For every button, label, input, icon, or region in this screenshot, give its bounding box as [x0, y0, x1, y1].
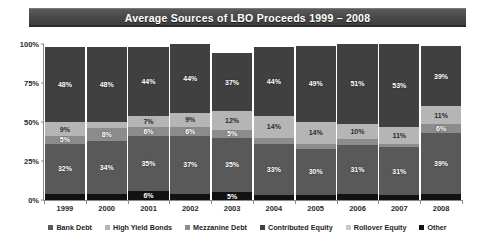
bar-segment[interactable]: 7% [128, 116, 168, 127]
page-title: Average Sources of LBO Proceeds 1999 – 2… [29, 9, 466, 26]
bar-segment-label: 6% [143, 192, 153, 199]
legend-item[interactable]: Bank Debt [48, 223, 92, 232]
bar-segment-label: 39% [434, 160, 448, 167]
bar-segment[interactable]: 6% [421, 124, 461, 133]
bar-segment[interactable]: 6% [128, 191, 168, 200]
bar-segment[interactable]: 44% [128, 47, 168, 116]
bar-segment[interactable]: 5% [45, 136, 85, 144]
bar-segment-label: 5% [60, 136, 70, 143]
bar-segment[interactable]: 8% [87, 128, 127, 140]
bar-segment[interactable]: 39% [421, 46, 461, 107]
bar-segment[interactable]: 9% [170, 113, 210, 127]
bar-segment[interactable]: 12% [212, 111, 252, 130]
x-axis-tick-label: 2000 [87, 204, 127, 216]
bar-segment-label: 48% [100, 81, 114, 88]
legend-item[interactable]: High Yield Bonds [105, 223, 172, 232]
bar-segment-label: 9% [185, 116, 195, 123]
bar-segment[interactable]: 6% [170, 127, 210, 136]
legend-item-label: Other [427, 223, 446, 232]
bar-segment[interactable]: 4% [421, 194, 461, 200]
bar-segment[interactable]: 10% [337, 124, 377, 140]
legend-swatch-icon [346, 225, 351, 230]
bar-segment-label: 11% [392, 132, 406, 139]
bar-segment[interactable]: 4% [45, 194, 85, 200]
bar-series-group: 48%9%5%32%4%48%4%8%34%4%44%7%6%35%6%44%9… [44, 44, 462, 200]
bar-segment[interactable]: 9% [45, 122, 85, 136]
bar-segment[interactable]: 4% [87, 194, 127, 200]
legend-item[interactable]: Mezzanine Debt [185, 223, 247, 232]
bar-segment[interactable]: 37% [212, 53, 252, 111]
bar-segment-label: 30% [309, 168, 323, 175]
bar-segment[interactable]: 14% [296, 122, 336, 144]
bar-segment-label: 31% [392, 168, 406, 175]
bar-segment[interactable]: 33% [254, 144, 294, 195]
bar-segment-label: 31% [350, 166, 364, 173]
bar-segment[interactable] [254, 195, 294, 200]
bar-segment-label: 44% [267, 78, 281, 85]
legend-item[interactable]: Rollover Equity [346, 223, 407, 232]
legend-item-label: Rollover Equity [354, 223, 407, 232]
bar-segment[interactable] [296, 195, 336, 200]
bar-segment-label: 5% [227, 193, 237, 200]
bar-segment[interactable] [337, 194, 377, 200]
legend-swatch-icon [48, 225, 53, 230]
bar-column[interactable]: 51%10%4%31% [337, 44, 377, 200]
bar-segment[interactable]: 4% [170, 194, 210, 200]
bar-segment-label: 44% [183, 75, 197, 82]
chart-page: Average Sources of LBO Proceeds 1999 – 2… [0, 0, 481, 237]
bar-segment[interactable]: 11% [379, 127, 419, 144]
bar-segment-label: 11% [434, 112, 448, 119]
bar-segment[interactable]: 5% [212, 130, 252, 138]
bar-segment[interactable]: 30% [296, 149, 336, 196]
bar-segment-label: 33% [267, 166, 281, 173]
bar-segment[interactable]: 14% [254, 116, 294, 138]
legend-swatch-icon [419, 225, 424, 230]
bar-segment[interactable]: 39% [421, 133, 461, 194]
chart-title-bar: Average Sources of LBO Proceeds 1999 – 2… [29, 8, 466, 25]
title-underline [29, 25, 466, 27]
bar-column[interactable]: 44%7%6%35%6% [128, 44, 168, 200]
bar-segment[interactable]: 37% [170, 136, 210, 194]
bar-segment[interactable]: 49% [296, 46, 336, 122]
bar-segment[interactable]: 6% [128, 127, 168, 136]
x-axis-tick-label: 2003 [212, 204, 252, 216]
bar-column[interactable]: 48%4%8%34%4% [87, 44, 127, 200]
legend-item-label: Contributed Equity [268, 223, 333, 232]
bar-segment[interactable]: 11% [421, 106, 461, 123]
bar-segment[interactable]: 48% [87, 47, 127, 122]
bar-segment-label: 39% [434, 73, 448, 80]
bar-segment[interactable]: 48% [45, 47, 85, 122]
bar-segment[interactable]: 31% [337, 145, 377, 193]
bar-segment-label: 51% [350, 80, 364, 87]
bar-segment-label: 10% [350, 128, 364, 135]
bar-segment[interactable]: 34% [87, 141, 127, 194]
bar-segment[interactable]: 51% [337, 44, 377, 124]
bar-segment[interactable]: 44% [170, 44, 210, 113]
legend-item-label: Mezzanine Debt [193, 223, 247, 232]
bar-segment[interactable]: 31% [379, 147, 419, 195]
bar-segment[interactable]: 53% [379, 44, 419, 127]
bar-column[interactable]: 44%9%6%37%4% [170, 44, 210, 200]
bar-segment[interactable]: 32% [45, 144, 85, 194]
legend-item-label: High Yield Bonds [113, 223, 172, 232]
bar-segment-label: 6% [143, 128, 153, 135]
legend-swatch-icon [185, 225, 190, 230]
bar-segment-label: 6% [436, 125, 446, 132]
bar-segment[interactable]: 35% [128, 136, 168, 191]
legend-item[interactable]: Other [419, 223, 446, 232]
bar-column[interactable]: 37%12%5%35%5% [212, 44, 252, 200]
bar-column[interactable]: 48%9%5%32%4% [45, 44, 85, 200]
bar-segment-label: 34% [100, 164, 114, 171]
bar-column[interactable]: 39%11%6%39%4% [421, 44, 461, 200]
bar-segment[interactable] [379, 195, 419, 200]
bar-column[interactable]: 44%14%4%33% [254, 44, 294, 200]
bar-column[interactable]: 53%11%2%31% [379, 44, 419, 200]
x-axis-tick-label: 2002 [170, 204, 210, 216]
bar-column[interactable]: 49%14%3%30% [296, 44, 336, 200]
bar-segment[interactable]: 44% [254, 47, 294, 116]
legend-item[interactable]: Contributed Equity [260, 223, 333, 232]
bar-segment[interactable]: 5% [212, 192, 252, 200]
bar-segment-label: 14% [309, 129, 323, 136]
bar-segment-label: 32% [58, 165, 72, 172]
bar-segment[interactable]: 35% [212, 138, 252, 193]
